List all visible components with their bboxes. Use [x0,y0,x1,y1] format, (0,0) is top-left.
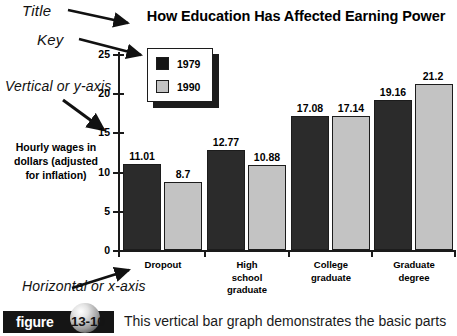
legend-swatch-1979-icon [156,57,169,70]
bar-1979-high-school-graduate [207,150,245,250]
legend-swatch-1990-icon [156,80,169,93]
annotation-key-label: Key [37,31,63,48]
x-tick-3 [371,250,373,257]
y-axis-line [118,52,120,252]
x-category-line-2: school [225,272,269,285]
legend-key: 1979 1990 [147,48,213,102]
legend-label-1990: 1990 [177,81,200,93]
figure-word: figure [16,314,54,330]
bar-value-1979-graduate-degree: 19.16 [374,86,412,98]
bar-1990-college-graduate [332,116,370,250]
x-category-line-2: degree [392,272,436,285]
y-tick-label-0: 0 [86,244,110,256]
annotation-title-label: Title [22,2,51,19]
y-tick-label-5: 5 [86,205,110,217]
x-axis-line [118,250,455,252]
x-category-line-1: College [309,259,353,272]
x-category-graduate-degree: Graduate degree [392,259,436,284]
figure-number: 13-10 [71,314,105,329]
bar-value-1990-college-graduate: 17.14 [332,102,370,114]
x-category-dropout: Dropout [141,259,185,272]
y-tick-label-15: 15 [86,126,110,138]
x-category-line-1: Graduate [392,259,436,272]
bar-value-1979-college-graduate: 17.08 [291,102,329,114]
y-tick-25 [113,54,124,56]
bar-1990-dropout [164,182,202,250]
chart-title: How Education Has Affected Earning Power [146,8,446,24]
x-category-college-graduate: College graduate [309,259,353,284]
x-category-line-2: graduate [309,272,353,285]
annotation-x-axis-label: Horizontal or x-axis [22,278,146,294]
x-category-line-3: graduate [225,284,269,297]
bar-value-1990-dropout: 8.7 [164,168,202,180]
bar-1979-graduate-degree [374,100,412,250]
legend-label-1979: 1979 [177,58,200,70]
bar-1990-graduate-degree [415,84,453,250]
x-category-high-school-graduate: High school graduate [225,259,269,297]
bar-1979-dropout [123,164,161,250]
bar-value-1990-graduate-degree: 21.2 [413,70,453,82]
y-tick-15 [113,132,124,134]
bar-value-1979-high-school-graduate: 12.77 [207,136,245,148]
figure-caption-text: This vertical bar graph demonstrates the… [124,313,446,329]
x-tick-0 [118,250,120,257]
bar-1990-high-school-graduate [248,165,286,250]
bar-1979-college-graduate [291,116,329,250]
x-tick-2 [288,250,290,257]
y-tick-20 [113,93,124,95]
bar-value-1990-high-school-graduate: 10.88 [248,151,286,163]
arrow-to-title [68,10,128,23]
x-category-line-1: High [225,259,269,272]
x-tick-4 [454,250,456,257]
y-axis-caption: Hourly wages in dollars (adjusted for in… [8,140,104,182]
x-tick-1 [204,250,206,257]
y-tick-label-20: 20 [86,87,110,99]
y-tick-label-25: 25 [86,48,110,60]
bar-value-1979-dropout: 11.01 [123,150,161,162]
